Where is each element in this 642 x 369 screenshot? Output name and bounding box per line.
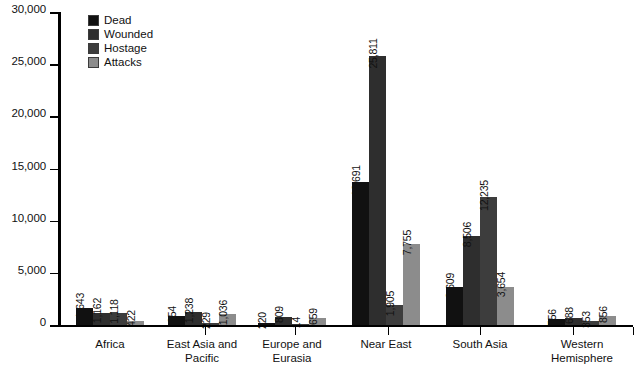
y-axis-tick-mark <box>50 273 58 275</box>
legend-item[interactable]: Wounded <box>88 28 208 42</box>
bar: 1,036 <box>219 314 236 325</box>
y-axis-tick: 5,000 <box>0 273 58 274</box>
x-axis-separator-tick <box>205 327 206 335</box>
bar-value-label: 1,238 <box>183 297 194 322</box>
bar: 856 <box>599 316 616 325</box>
bar-value-label: 3,609 <box>444 273 455 298</box>
legend-item-label: Dead <box>104 15 132 27</box>
x-axis-separator-tick <box>480 327 481 335</box>
x-axis-separator-tick <box>573 327 574 335</box>
bar: 8,506 <box>463 236 480 325</box>
legend-item[interactable]: Hostage <box>88 42 208 56</box>
y-axis-tick-label: 10,000 <box>11 213 46 225</box>
bar: 3,609 <box>446 287 463 325</box>
y-axis-tick-mark <box>50 116 58 118</box>
bar-value-label: 659 <box>307 308 318 325</box>
bar-group: 556688353856 <box>548 12 616 325</box>
y-axis-tick: 10,000 <box>0 221 58 222</box>
x-axis-separator-tick <box>388 327 389 335</box>
y-axis-tick-label: 30,000 <box>11 4 46 16</box>
bar-value-label: 688 <box>563 307 574 324</box>
bar-value-label: 854 <box>166 306 177 323</box>
bar-value-label: 7,755 <box>401 229 412 254</box>
y-axis-tick-mark <box>50 64 58 66</box>
y-axis-tick: 30,000 <box>0 12 58 13</box>
y-axis-tick-label: 20,000 <box>11 108 46 120</box>
y-axis-tick-mark <box>50 325 58 327</box>
bar-value-label: 25,811 <box>367 39 378 69</box>
legend-item[interactable]: Dead <box>88 14 208 28</box>
legend-swatch-icon <box>88 43 99 54</box>
legend-swatch-icon <box>88 57 99 68</box>
y-axis-tick: 25,000 <box>0 64 58 65</box>
x-axis-line <box>58 325 633 327</box>
bar: 3,654 <box>497 287 514 325</box>
bar-group: 3,6098,50612,2353,654 <box>446 12 514 325</box>
y-axis-tick: 0 <box>0 325 58 326</box>
bar-value-label: 809 <box>273 306 284 323</box>
legend-item-label: Hostage <box>104 43 147 55</box>
y-axis-tick: 20,000 <box>0 116 58 117</box>
bar: 13,691 <box>352 182 369 325</box>
bar-value-label: 3,654 <box>495 272 506 297</box>
y-axis-tick-label: 25,000 <box>11 56 46 68</box>
legend-item-label: Wounded <box>104 29 153 41</box>
bar: 12,235 <box>480 197 497 325</box>
x-axis-group-label: Western Hemisphere <box>522 338 642 365</box>
x-axis-separator-tick <box>295 327 296 335</box>
y-axis-tick-mark <box>50 169 58 171</box>
y-axis-tick: 15,000 <box>0 169 58 170</box>
bar: 659 <box>309 318 326 325</box>
bar-value-label: 13,691 <box>350 165 361 196</box>
bar: 7,755 <box>403 244 420 325</box>
chart-legend: DeadWoundedHostageAttacks <box>88 14 208 70</box>
y-axis-tick-label: 5,000 <box>18 265 46 277</box>
y-axis-tick-mark <box>50 12 58 14</box>
bar-value-label: 1,118 <box>108 299 119 324</box>
bar-value-label: 856 <box>597 306 608 323</box>
bar-value-label: 1,162 <box>91 298 102 323</box>
x-axis-separator-tick <box>633 327 634 335</box>
bar-group: 13,69125,8111,9057,755 <box>352 12 420 325</box>
y-axis-tick-mark <box>50 221 58 223</box>
legend-swatch-icon <box>88 29 99 40</box>
bar-value-label: 12,235 <box>478 180 489 211</box>
bar-group: 22080914659 <box>258 12 326 325</box>
bar: 1,905 <box>386 305 403 325</box>
bar-value-label: 1,036 <box>217 300 228 325</box>
bar-chart: 05,00010,00015,00020,00025,00030,000 1,6… <box>0 0 642 369</box>
legend-swatch-icon <box>88 15 99 26</box>
y-axis-tick-label: 0 <box>40 317 46 329</box>
bar-value-label: 556 <box>546 309 557 326</box>
bar-value-label: 1,905 <box>384 290 395 315</box>
bar: 25,811 <box>369 56 386 325</box>
legend-item[interactable]: Attacks <box>88 56 208 70</box>
y-axis-tick-label: 15,000 <box>11 161 46 173</box>
bar-value-label: 1,643 <box>74 293 85 318</box>
legend-item-label: Attacks <box>104 57 142 69</box>
bar-value-label: 8,506 <box>461 222 472 247</box>
